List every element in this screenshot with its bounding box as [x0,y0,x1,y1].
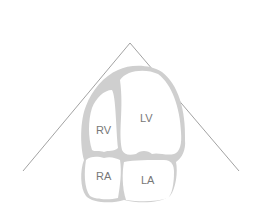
label-rv: RV [96,124,112,136]
label-ra: RA [96,170,112,182]
four-chamber-diagram: RV LV RA LA [0,0,259,216]
label-lv: LV [140,112,153,124]
label-la: LA [141,174,155,186]
